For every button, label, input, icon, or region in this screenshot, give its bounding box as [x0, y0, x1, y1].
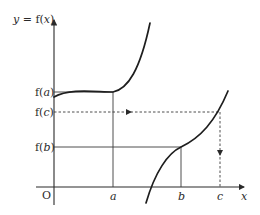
- function-diagram: y = f(x) f(a) f(c) f(b) O a b c x: [0, 0, 260, 215]
- y-tick-label-fa: f(a): [35, 86, 54, 99]
- x-axis-label: x: [241, 190, 248, 203]
- origin-label: O: [42, 189, 51, 202]
- x-tick-label-c: c: [217, 190, 223, 203]
- x-tick-label-b: b: [178, 190, 185, 203]
- left-branch-curve: [54, 23, 150, 97]
- y-tick-label-fb: f(b): [35, 141, 55, 154]
- y-axis-label: y = f(x): [12, 13, 54, 26]
- c-down-arrow-icon: [217, 150, 223, 156]
- fc-right-arrow-icon: [126, 109, 132, 115]
- y-tick-label-fc: f(c): [35, 106, 54, 119]
- x-tick-label-a: a: [110, 190, 117, 203]
